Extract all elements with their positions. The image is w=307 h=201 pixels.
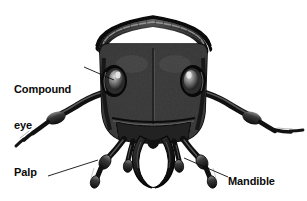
- label-compound-eye: Compound eye: [14, 59, 71, 155]
- label-mandible: Mandible: [228, 175, 275, 187]
- label-compound-eye-line2: eye: [14, 119, 71, 131]
- compound-eye-right: [180, 65, 206, 97]
- label-palp: Palp: [14, 166, 37, 178]
- insect-head-figure: Compound eye Palp Mandible: [0, 0, 307, 201]
- label-compound-eye-line1: Compound: [14, 83, 71, 95]
- compound-eye-left: [101, 65, 127, 97]
